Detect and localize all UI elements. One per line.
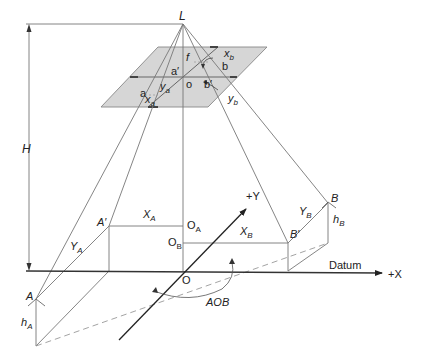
diagram-canvas: L H f o a′ b′ a b xa ya xb yb A A′ B B′ … [0,0,423,362]
label-a-prime: a′ [171,65,179,77]
label-A: A [25,290,33,302]
label-Y-B: YB [299,205,312,220]
label-y-b: yb [227,92,239,107]
label-b: b [222,60,228,72]
datum-x-axis [26,271,382,273]
label-h-A: hA [21,316,32,331]
label-B: B [331,192,338,204]
arc-arrow-icon [229,258,235,264]
label-o: o [186,78,192,90]
photo-plane [101,47,267,107]
arc-arrow-icon [152,287,158,293]
arrow-up-icon [27,24,32,32]
label-O: O [182,274,191,286]
label-O-A: OA [187,219,202,234]
label-plus-Y: +Y [246,190,260,202]
dashed-ab-line [36,243,328,346]
label-O-B: OB [168,236,182,251]
label-datum: Datum [329,259,361,271]
label-B-prime: B′ [290,228,300,240]
label-Y-A: YA [70,240,83,255]
label-X-B: XB [239,225,253,240]
label-L: L [179,9,186,23]
label-h-B: hB [333,213,345,228]
label-X-A: XA [142,208,156,223]
label-H: H [22,142,31,156]
label-plus-X: +X [388,268,402,280]
photogrammetry-diagram: L H f o a′ b′ a b xa ya xb yb A A′ B B′ … [0,0,423,362]
arrow-down-icon [27,263,32,271]
label-A-prime: A′ [96,216,107,228]
label-b-prime: b′ [204,78,212,90]
label-AOB: AOB [205,296,229,308]
